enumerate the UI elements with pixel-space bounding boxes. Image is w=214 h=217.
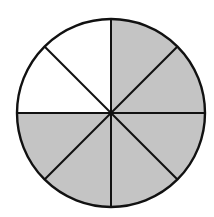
fraction-circle (0, 0, 214, 217)
fraction-circle-diagram (0, 0, 214, 217)
